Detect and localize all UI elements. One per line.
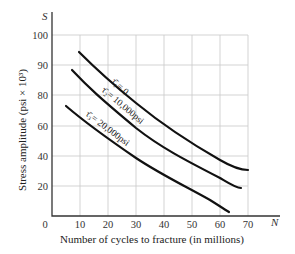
x-tick-labels: 0 10 20 30 40 50 60 70 (42, 219, 253, 230)
y-axis-symbol: S (42, 10, 48, 22)
y-tick: 60 (38, 121, 49, 132)
fatigue-chart: S N 100 90 80 60 40 20 0 10 20 30 40 50 … (0, 0, 295, 254)
y-tick-labels: 100 90 80 60 40 20 (32, 30, 48, 192)
x-tick: 10 (75, 219, 86, 230)
curve-tau1 (79, 52, 248, 170)
y-tick: 20 (38, 181, 49, 192)
y-axis-title: Stress amplitude (psi × 10³) (16, 69, 29, 191)
y-tick: 80 (38, 90, 49, 101)
x-axis-title: Number of cycles to fracture (in million… (60, 233, 244, 246)
x-tick: 60 (215, 219, 226, 230)
x-tick: 50 (187, 219, 198, 230)
curve-tau3 (66, 106, 229, 212)
y-tick: 40 (38, 151, 49, 162)
y-tick: 100 (32, 30, 48, 41)
x-tick: 40 (159, 219, 170, 230)
x-tick: 20 (103, 219, 114, 230)
x-tick: 30 (131, 219, 142, 230)
x-axis-symbol: N (270, 216, 279, 228)
y-tick: 90 (38, 60, 49, 71)
x-tick: 70 (243, 219, 254, 230)
grid-lines (52, 35, 248, 216)
x-tick: 0 (42, 219, 47, 230)
